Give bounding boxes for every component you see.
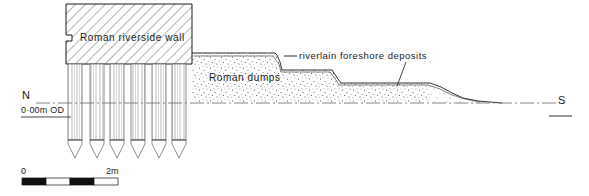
archaeological-section-figure: N 0·00m OD S Roman riverside wall Roman … [0,0,589,196]
pile-tip [152,140,166,158]
pile-tip [131,140,145,158]
pile-shaft [110,64,124,140]
north-marker-label: N [22,89,30,101]
pile-tip [172,140,186,158]
pile-tip [68,140,82,158]
scale-bar-segment [94,178,118,185]
foreshore-label-leader-line [397,62,406,86]
wall-label: Roman riverside wall [80,32,185,43]
pile-shaft [152,64,166,140]
deposit-distal-wedge [430,83,502,103]
scale-bar-segment [70,178,94,185]
scale-bar-segment [22,178,46,185]
timber-pile [172,64,186,158]
scale-bar-segment [46,178,70,185]
timber-pile [68,64,82,158]
timber-pile [110,64,124,158]
pile-shaft [90,64,104,140]
roman-dumps-label: Roman dumps [209,72,281,83]
scale-bar: 0 2m [21,166,119,185]
timber-pile [131,64,145,158]
south-marker-label: S [558,94,565,106]
datum-level-label: 0·00m OD [21,105,64,115]
pile-shaft [172,64,186,140]
pile-shaft [68,64,82,140]
section-drawing-canvas: N 0·00m OD S Roman riverside wall Roman … [0,0,589,196]
pile-tip [110,140,124,158]
timber-pile [90,64,104,158]
timber-pile [152,64,166,158]
pile-tip [90,140,104,158]
pile-shaft [131,64,145,140]
scale-bar-end-label: 2m [106,166,119,176]
timber-pile-group [68,64,186,158]
foreshore-deposits-label: riverlain foreshore deposits [299,50,427,61]
scale-bar-start-label: 0 [21,166,26,176]
